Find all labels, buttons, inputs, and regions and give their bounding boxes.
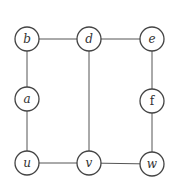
node-v: v xyxy=(77,151,101,175)
node-label: v xyxy=(86,156,93,170)
node-f: f xyxy=(140,89,164,113)
node-label: u xyxy=(23,156,31,170)
node-a: a xyxy=(15,87,39,111)
edges xyxy=(27,39,152,164)
node-b: b xyxy=(15,27,39,51)
node-label: a xyxy=(23,92,30,106)
node-u: u xyxy=(15,151,39,175)
node-d: d xyxy=(77,27,101,51)
graph-diagram: bdeafuvw xyxy=(0,0,172,183)
node-label: e xyxy=(148,32,155,46)
node-label: d xyxy=(85,32,93,46)
node-label: w xyxy=(147,157,158,171)
node-w: w xyxy=(140,152,164,176)
node-label: b xyxy=(23,32,31,46)
node-e: e xyxy=(140,27,164,51)
